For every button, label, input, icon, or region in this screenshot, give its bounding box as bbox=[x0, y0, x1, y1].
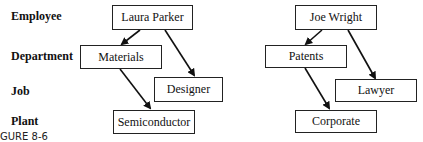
department-box: Patents bbox=[265, 45, 347, 68]
plant-box: Semiconductor bbox=[113, 110, 195, 134]
arrow-department-to-plant bbox=[305, 68, 329, 108]
arrow-employee-to-job bbox=[165, 30, 194, 75]
arrow-employee-to-job bbox=[348, 30, 375, 78]
employee-box: Joe Wright bbox=[295, 5, 377, 30]
department-box: Materials bbox=[80, 45, 162, 69]
job-box: Lawyer bbox=[335, 79, 417, 102]
row-label-job: Job bbox=[11, 84, 30, 99]
plant-box: Corporate bbox=[295, 110, 377, 133]
employee-box: Laura Parker bbox=[112, 5, 193, 30]
arrow-employee-to-department bbox=[122, 30, 140, 44]
row-label-department: Department bbox=[11, 49, 73, 64]
arrow-department-to-plant bbox=[120, 69, 150, 108]
row-label-employee: Employee bbox=[11, 9, 62, 24]
job-box: Designer bbox=[154, 77, 223, 102]
figure-caption: GURE 8-6 bbox=[0, 131, 48, 142]
row-label-plant: Plant bbox=[11, 114, 38, 129]
arrow-employee-to-department bbox=[306, 30, 322, 44]
